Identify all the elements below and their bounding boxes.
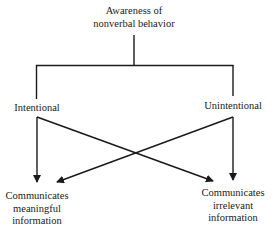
outcome-meaningful-line-1: Communicates xyxy=(0,190,77,203)
branch-unintentional-label: Unintentional xyxy=(200,100,266,113)
outcome-meaningful-line-2: meaningful xyxy=(0,203,77,216)
outcome-irrelevant-label: Communicates irrelevant information xyxy=(193,187,273,225)
outcome-irrelevant-line-2: irrelevant xyxy=(193,200,273,213)
outcome-meaningful-line-3: information xyxy=(0,215,77,228)
outcome-irrelevant-line-3: information xyxy=(193,212,273,225)
outcome-irrelevant-line-1: Communicates xyxy=(193,187,273,200)
outcome-meaningful-label: Communicates meaningful information xyxy=(0,190,77,228)
arrow-intentional-to-irrelevant xyxy=(37,117,213,181)
root-line-1: Awareness of xyxy=(84,5,184,18)
branch-intentional-label: Intentional xyxy=(8,102,66,115)
root-node-label: Awareness of nonverbal behavior xyxy=(84,5,184,30)
arrow-unintentional-to-meaningful xyxy=(57,117,233,182)
root-line-2: nonverbal behavior xyxy=(84,18,184,31)
